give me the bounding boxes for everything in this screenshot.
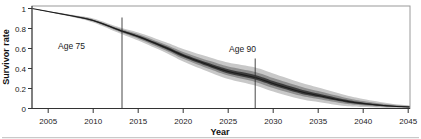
x-tick-label-2015: 2015	[129, 117, 147, 126]
survival-rate-chart: 00.20.40.60.8120052010201520202025203020…	[0, 0, 421, 139]
y-tick-label-0.8: 0.8	[15, 25, 27, 34]
central-estimate-line	[32, 9, 410, 108]
annotation-age-90: Age 90	[229, 44, 256, 54]
y-tick-label-0.4: 0.4	[15, 65, 27, 74]
x-tick-label-2035: 2035	[309, 117, 327, 126]
middle-confidence-band	[32, 9, 410, 108]
x-tick-label-2025: 2025	[219, 117, 237, 126]
x-axis-title: Year	[210, 127, 230, 137]
y-axis-title: Survivor rate	[1, 29, 11, 85]
x-tick-label-2040: 2040	[354, 117, 372, 126]
x-tick-label-2005: 2005	[39, 117, 57, 126]
annotation-age-75: Age 75	[58, 41, 85, 51]
y-tick-label-0.2: 0.2	[15, 85, 27, 94]
x-tick-label-2030: 2030	[264, 117, 282, 126]
chart-canvas: 00.20.40.60.8120052010201520202025203020…	[0, 0, 421, 139]
y-tick-label-0: 0	[22, 105, 27, 114]
outer-confidence-band	[32, 9, 410, 109]
x-tick-label-2045: 2045	[399, 117, 417, 126]
y-tick-label-0.6: 0.6	[15, 45, 27, 54]
axis-lines	[32, 6, 410, 109]
x-tick-label-2010: 2010	[84, 117, 102, 126]
y-tick-label-1: 1	[22, 5, 27, 14]
plot-frame	[32, 6, 410, 109]
inner-confidence-band	[32, 9, 410, 108]
x-tick-label-2020: 2020	[174, 117, 192, 126]
